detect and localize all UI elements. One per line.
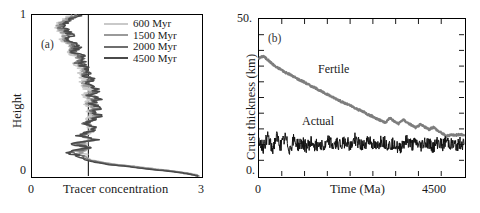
legend-label: 4500 Myr	[133, 53, 177, 65]
legend-item: 600 Myr	[104, 18, 200, 30]
panel-a-ytick-top: 1	[20, 7, 26, 22]
legend-swatch-1500myr	[104, 34, 128, 36]
panel-b-ylabel: Crust thickness (km)	[244, 54, 259, 160]
panel-b: Crust thickness (km) Time (Ma) 50. 0. 0 …	[240, 0, 480, 213]
panel-a-tag: (a)	[41, 38, 54, 50]
legend-label: 2000 Myr	[133, 41, 177, 53]
legend-item: 2000 Myr	[104, 41, 200, 53]
legend-swatch-4500myr	[104, 57, 128, 59]
panel-b-ytick-top: 50.	[237, 11, 252, 26]
legend-label: 600 Myr	[133, 18, 171, 30]
panel-a-xlabel: Tracer concentration	[63, 182, 168, 197]
panel-a-ytick-bottom: 0	[20, 163, 26, 178]
legend-swatch-600myr	[104, 23, 128, 25]
panel-b-xtick-left: 0	[255, 182, 261, 197]
panel-b-tag: (b)	[268, 32, 281, 44]
panel-b-curves	[259, 19, 464, 176]
legend-swatch-2000myr	[104, 46, 128, 48]
curve-label-actual: Actual	[302, 114, 334, 129]
panel-b-xtick-right: 4500	[422, 182, 446, 197]
curve-label-fertile: Fertile	[318, 62, 349, 77]
figure-container: Height Tracer concentration 1 0 0 3 (a) …	[0, 0, 480, 213]
panel-a-ylabel: Height	[10, 93, 25, 128]
panel-b-ytick-bottom: 0.	[246, 163, 255, 178]
panel-a-xtick-left: 0	[28, 182, 34, 197]
panel-a: Height Tracer concentration 1 0 0 3 (a) …	[0, 0, 240, 213]
panel-b-xlabel: Time (Ma)	[330, 182, 385, 197]
panel-a-xtick-right: 3	[198, 182, 204, 197]
panel-a-legend: 600 Myr 1500 Myr 2000 Myr 4500 Myr	[104, 18, 200, 64]
panel-b-plot-frame	[258, 18, 466, 178]
legend-item: 4500 Myr	[104, 53, 200, 65]
